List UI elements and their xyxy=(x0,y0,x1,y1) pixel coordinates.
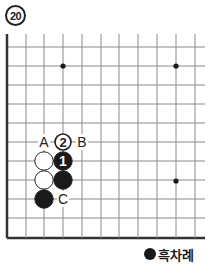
white-stone xyxy=(35,171,53,189)
turn-label: 흑차례 xyxy=(158,245,194,264)
star-point-icon xyxy=(173,178,178,183)
move-number: 1 xyxy=(59,153,67,169)
go-board-diagram: ABC 12 xyxy=(0,0,211,264)
move-number: 2 xyxy=(59,135,66,150)
star-point-icon xyxy=(173,63,178,68)
star-point-icon xyxy=(60,63,65,68)
position-label-c: C xyxy=(58,191,68,207)
black-stone-icon xyxy=(144,248,156,260)
black-stone xyxy=(54,171,72,189)
turn-indicator: 흑차례 xyxy=(144,245,194,263)
white-stone xyxy=(35,152,53,170)
position-label-b: B xyxy=(77,134,86,150)
black-stone xyxy=(35,190,53,208)
position-label-a: A xyxy=(39,134,49,150)
